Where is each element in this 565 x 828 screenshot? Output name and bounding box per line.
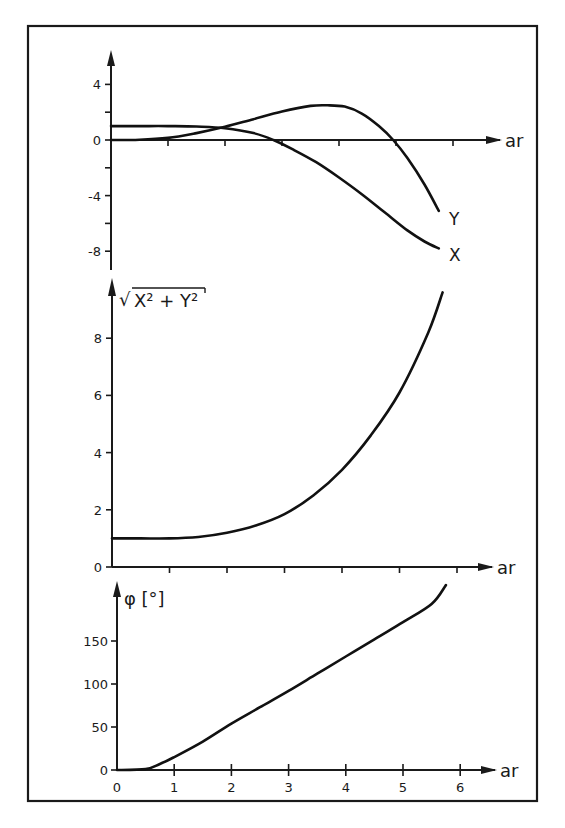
top-y-axis-arrow-icon: [107, 50, 115, 66]
x-tick-label: 2: [227, 780, 235, 795]
bottom-x-ticks: 0123456: [113, 764, 464, 795]
bottom-x-axis-label: ar: [500, 760, 519, 781]
y-tick-label: 50: [91, 720, 108, 735]
bottom-y-axis-label: φ [°]: [124, 588, 165, 609]
middle-y-axis-label: √ X² + Y²: [119, 288, 205, 311]
x-tick-label: 4: [342, 780, 350, 795]
bottom-x-axis-arrow-icon: [481, 766, 497, 774]
middle-y-axis-arrow-icon: [108, 278, 116, 296]
phi-curve: [117, 585, 446, 770]
y-tick-label: -8: [88, 244, 101, 259]
y-tick-label: 0: [100, 763, 108, 778]
x-tick-label: 3: [284, 780, 292, 795]
y-tick-label: 6: [94, 388, 102, 403]
y-tick-label: 0: [93, 133, 101, 148]
middle-x-axis-label: ar: [497, 557, 516, 578]
bottom-y-axis-arrow-icon: [113, 581, 121, 597]
x-tick-label: 6: [456, 780, 464, 795]
series-y-label: Y: [448, 209, 460, 229]
panel-top: ar 40-4-8 Y X: [88, 50, 524, 270]
middle-x-axis-arrow-icon: [478, 563, 494, 571]
figure: ar 40-4-8 Y X ar √ X² + Y² 86420 ar φ [°…: [0, 0, 565, 828]
x-tick-label: 1: [170, 780, 178, 795]
y-tick-label: 2: [94, 503, 102, 518]
radical-expression: X² + Y²: [134, 290, 198, 311]
magnitude-curve: [112, 292, 443, 538]
top-x-axis-arrow-icon: [486, 136, 502, 144]
y-tick-label: 4: [93, 77, 101, 92]
radical-sign: √: [119, 289, 131, 310]
panel-middle: ar √ X² + Y² 86420: [94, 278, 516, 578]
bottom-y-ticks: 150100500: [83, 634, 117, 778]
panel-bottom: ar φ [°] 0123456 150100500: [83, 581, 519, 795]
y-tick-label: 150: [83, 634, 108, 649]
y-tick-label: 0: [94, 560, 102, 575]
middle-y-ticks: 86420: [94, 331, 112, 575]
x-tick-label: 5: [399, 780, 407, 795]
y-tick-label: -4: [88, 189, 101, 204]
y-tick-label: 100: [83, 677, 108, 692]
series-x-label: X: [449, 245, 461, 265]
y-tick-label: 4: [94, 446, 102, 461]
series-x-curve: [111, 126, 439, 248]
x-tick-label: 0: [113, 780, 121, 795]
y-tick-label: 8: [94, 331, 102, 346]
top-y-ticks: 40-4-8: [88, 77, 111, 259]
series-y-curve: [111, 105, 439, 211]
top-x-axis-label: ar: [505, 130, 524, 151]
